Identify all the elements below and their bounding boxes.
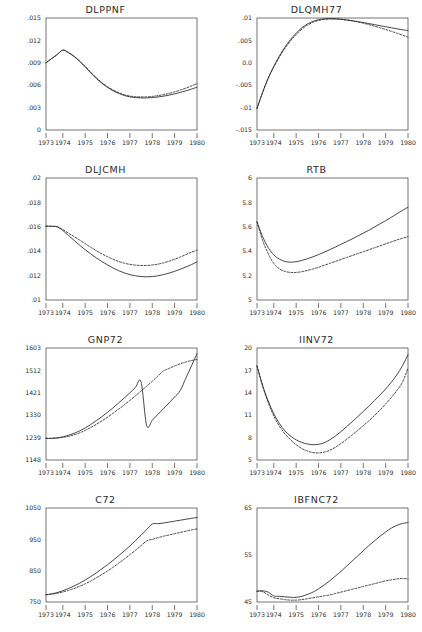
x-axis-tick-label: 1973 — [249, 469, 265, 476]
y-axis-tick-label: 11 — [244, 411, 252, 418]
y-axis-tick-label: 1512 — [25, 367, 41, 374]
y-axis-tick-label: .006 — [27, 81, 41, 88]
x-axis-tick-label: 1978 — [144, 469, 160, 476]
y-axis-tick-label: 14 — [244, 389, 252, 396]
x-axis-tick-label: 1974 — [55, 309, 71, 316]
y-axis-tick-label: 8 — [248, 434, 252, 441]
chart-panel-ibfnc72: IBFNC72 45556519731974197519761977197819… — [211, 490, 422, 632]
x-axis-tick-label: 1977 — [122, 611, 138, 618]
y-axis-tick-label: 1050 — [25, 504, 41, 511]
chart-plot: 0.003.006.009.012.0151973197419751976197… — [0, 0, 211, 160]
y-axis-tick-label: 5.2 — [242, 272, 252, 279]
x-axis-tick-label: 1977 — [122, 139, 138, 146]
y-axis-tick-label: 950 — [29, 536, 41, 543]
x-axis-tick-label: 1974 — [55, 139, 71, 146]
x-axis-tick-label: 1979 — [378, 469, 394, 476]
x-axis-tick-label: 1979 — [167, 309, 183, 316]
chart-plot: 45556519731974197519761977197819791980 — [211, 490, 422, 632]
y-axis-tick-label: 750 — [29, 598, 41, 605]
chart-plot: 55.25.45.65.8619731974197519761977197819… — [211, 160, 422, 330]
x-axis-tick-label: 1975 — [288, 309, 304, 316]
x-axis-tick-label: 1980 — [400, 139, 416, 146]
x-axis-tick-label: 1974 — [55, 469, 71, 476]
x-axis-tick-label: 1974 — [266, 309, 282, 316]
series-line-solid — [46, 50, 197, 98]
x-axis-tick-label: 1977 — [122, 469, 138, 476]
x-axis-tick-label: 1976 — [311, 469, 327, 476]
y-axis-tick-label: .009 — [27, 59, 41, 66]
series-line-dashed — [46, 360, 197, 439]
series-line-solid — [257, 19, 408, 109]
chart-panel-gnp72: GNP72 1148123913301421151216031973197419… — [0, 330, 211, 490]
y-axis-tick-label: -.015 — [236, 126, 252, 133]
series-line-dashed — [257, 579, 408, 601]
x-axis-tick-label: 1977 — [122, 309, 138, 316]
y-axis-tick-label: 850 — [29, 567, 41, 574]
y-axis-tick-label: 6 — [248, 174, 252, 181]
y-axis-tick-label: -.01 — [240, 104, 252, 111]
y-axis-tick-label: .02 — [31, 174, 41, 181]
y-axis-tick-label: .005 — [238, 37, 252, 44]
x-axis-tick-label: 1975 — [288, 469, 304, 476]
x-axis-tick-label: 1973 — [249, 611, 265, 618]
chart-panel-rtb: RTB 55.25.45.65.861973197419751976197719… — [211, 160, 422, 330]
x-axis-tick-label: 1974 — [266, 139, 282, 146]
x-axis-tick-label: 1975 — [77, 469, 93, 476]
y-axis-tick-label: -.005 — [236, 81, 252, 88]
y-axis-tick-label: 65 — [244, 504, 252, 511]
x-axis-tick-label: 1973 — [38, 469, 54, 476]
x-axis-tick-label: 1980 — [400, 469, 416, 476]
chart-plot: -.015-.01-.0050.0.005.011973197419751976… — [211, 0, 422, 160]
y-axis-tick-label: .01 — [31, 296, 41, 303]
y-axis-tick-label: 1239 — [25, 434, 41, 441]
chart-plot: .01.012.014.016.018.02197319741975197619… — [0, 160, 211, 330]
y-axis-tick-label: .016 — [27, 223, 41, 230]
x-axis-tick-label: 1978 — [355, 309, 371, 316]
x-axis-tick-label: 1973 — [249, 309, 265, 316]
x-axis-tick-label: 1977 — [333, 611, 349, 618]
chart-panel-c72: C72 750850950105019731974197519761977197… — [0, 490, 211, 632]
x-axis-tick-label: 1976 — [100, 611, 116, 618]
series-line-solid — [257, 355, 408, 445]
series-line-solid — [257, 207, 408, 262]
y-axis-tick-label: 1603 — [25, 344, 41, 351]
x-axis-tick-label: 1973 — [38, 309, 54, 316]
x-axis-tick-label: 1974 — [266, 611, 282, 618]
y-axis-tick-label: .018 — [27, 199, 41, 206]
x-axis-tick-label: 1980 — [189, 611, 205, 618]
y-axis-tick-label: 1148 — [25, 456, 41, 463]
series-line-dashed — [46, 226, 197, 265]
y-axis-tick-label: 0.0 — [242, 59, 252, 66]
chart-panel-dlqmh77: DLQMH77 -.015-.01-.0050.0.005.0119731974… — [211, 0, 422, 160]
x-axis-tick-label: 1974 — [266, 469, 282, 476]
x-axis-tick-label: 1980 — [400, 611, 416, 618]
x-axis-tick-label: 1979 — [378, 611, 394, 618]
chart-plot: 7508509501050197319741975197619771978197… — [0, 490, 211, 632]
x-axis-tick-label: 1979 — [167, 139, 183, 146]
x-axis-tick-label: 1976 — [311, 611, 327, 618]
x-axis-tick-label: 1975 — [77, 139, 93, 146]
chart-plot: 5811141720197319741975197619771978197919… — [211, 330, 422, 490]
x-axis-tick-label: 1975 — [77, 611, 93, 618]
series-line-dashed — [257, 222, 408, 273]
x-axis-tick-label: 1978 — [144, 139, 160, 146]
y-axis-tick-label: .015 — [27, 14, 41, 21]
y-axis-tick-label: .012 — [27, 272, 41, 279]
y-axis-tick-label: 5.8 — [242, 199, 252, 206]
series-line-dashed — [257, 366, 408, 453]
x-axis-tick-label: 1980 — [189, 139, 205, 146]
x-axis-tick-label: 1977 — [333, 139, 349, 146]
chart-panel-iinv72: IINV72 581114172019731974197519761977197… — [211, 330, 422, 490]
chart-plot: 1148123913301421151216031973197419751976… — [0, 330, 211, 490]
series-line-dashed — [46, 529, 197, 595]
x-axis-tick-label: 1978 — [355, 611, 371, 618]
x-axis-tick-label: 1975 — [288, 139, 304, 146]
x-axis-tick-label: 1978 — [144, 309, 160, 316]
x-axis-tick-label: 1976 — [100, 309, 116, 316]
y-axis-tick-label: 1330 — [25, 411, 41, 418]
y-axis-tick-label: 17 — [244, 367, 252, 374]
y-axis-tick-label: 5 — [248, 456, 252, 463]
series-line-solid — [46, 517, 197, 594]
x-axis-tick-label: 1973 — [38, 611, 54, 618]
x-axis-tick-label: 1973 — [38, 139, 54, 146]
